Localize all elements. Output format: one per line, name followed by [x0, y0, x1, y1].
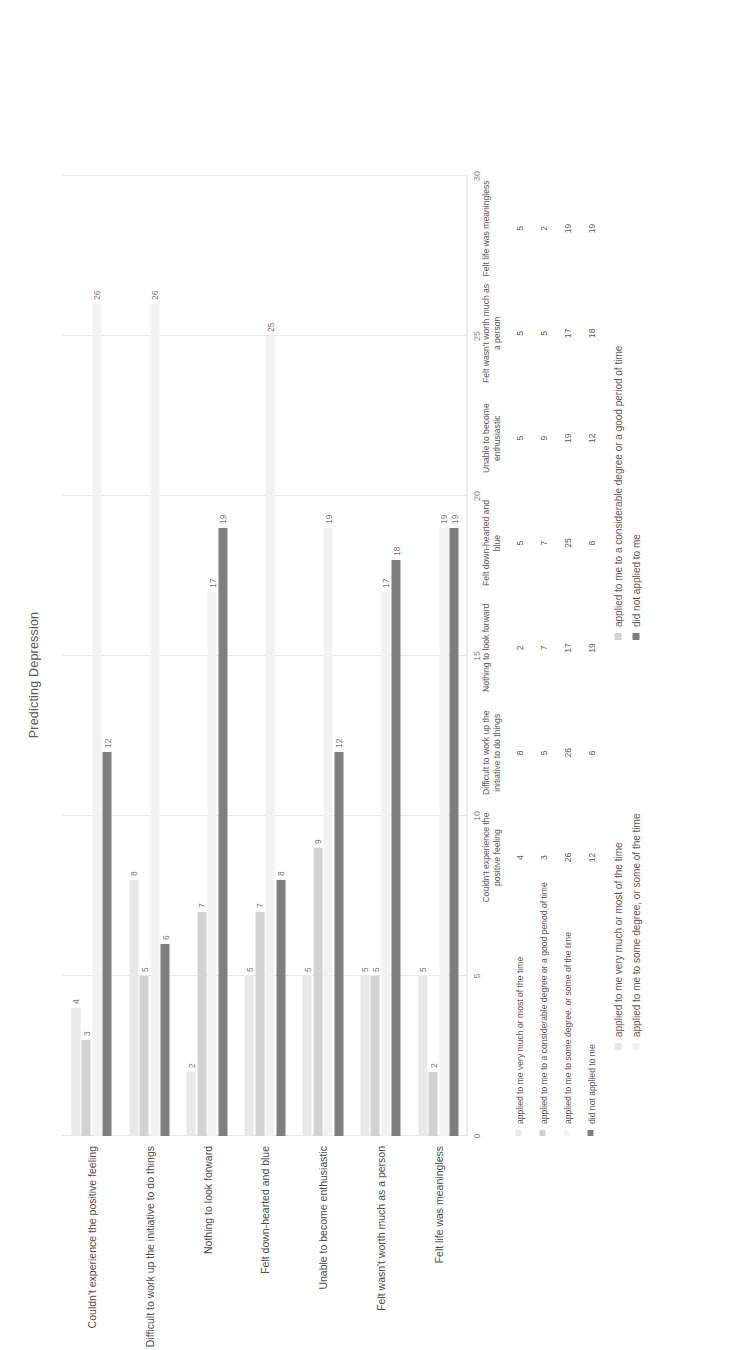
bar — [129, 880, 138, 1136]
legend-label: applied to me to a considerable degree o… — [612, 346, 623, 627]
table-cell: 5 — [536, 281, 560, 386]
table-cell: 7 — [536, 595, 560, 700]
bar-value-label: 2 — [428, 1063, 438, 1068]
table-cell: 6 — [584, 700, 608, 805]
bar-value-label: 7 — [254, 903, 264, 908]
table-cell: 5 — [512, 386, 536, 491]
bar — [244, 976, 253, 1136]
bar-value-label: 25 — [265, 323, 275, 332]
bar-value-label: 12 — [333, 739, 343, 748]
table-row-header-label: applied to me very much or most of the t… — [514, 957, 524, 1124]
bar-value-label: 26 — [91, 291, 101, 300]
table-row: did not applied to me126198121819 — [584, 176, 608, 1136]
legend-color-swatch — [632, 633, 639, 640]
bar — [313, 848, 322, 1136]
bar-value-label: 19 — [438, 515, 448, 524]
category-group: Felt down-hearted and blue57258 — [236, 176, 294, 1136]
chart-title: Predicting Depression — [26, 0, 40, 1350]
plot-area: 051015202530Couldn't experience the posi… — [62, 176, 467, 1136]
bar-value-label: 3 — [81, 1031, 91, 1036]
table-cell: 5 — [512, 176, 536, 281]
table-cell: 7 — [536, 491, 560, 596]
table-column-header: Nothing to look forward — [478, 595, 512, 700]
bar — [449, 528, 458, 1136]
bar — [218, 528, 227, 1136]
table-cell: 19 — [584, 176, 608, 281]
bar — [276, 880, 285, 1136]
bar-value-label: 12 — [102, 739, 112, 748]
bar-value-label: 17 — [207, 579, 217, 588]
bar-value-label: 8 — [275, 871, 285, 876]
bar-value-label: 26 — [149, 291, 159, 300]
table-corner-cell — [478, 910, 512, 1136]
category-group: Unable to become enthusiastic591912 — [293, 176, 351, 1136]
category-axis-label: Couldn't experience the positive feeling — [85, 1146, 97, 1328]
table-cell: 5 — [512, 491, 536, 596]
bar — [418, 976, 427, 1136]
legend-color-swatch — [614, 1043, 621, 1050]
table-row-header: applied to me to a considerable degree o… — [536, 910, 560, 1136]
table-row-header-label: applied to me to some degree, or some of… — [562, 932, 572, 1124]
table-cell: 8 — [512, 700, 536, 805]
category-group: Nothing to look forward271719 — [178, 176, 236, 1136]
category-group: Felt wasn't worth much as a person551718 — [351, 176, 409, 1136]
bar-value-label: 17 — [380, 579, 390, 588]
table-column-header: Couldn't experience the positive feeling — [478, 805, 512, 910]
bar — [370, 976, 379, 1136]
table-cell: 12 — [584, 386, 608, 491]
table-cell: 25 — [560, 491, 584, 596]
table-cell: 17 — [560, 595, 584, 700]
legend-item[interactable]: applied to me to a considerable degree o… — [612, 230, 623, 640]
table-cell: 26 — [560, 805, 584, 910]
table-row: applied to me very much or most of the t… — [512, 176, 536, 1136]
chart-stage: Predicting Depression 051015202530Couldn… — [0, 0, 741, 1350]
bar — [265, 336, 274, 1136]
data-table: Couldn't experience the positive feeling… — [478, 176, 608, 1136]
table-cell: 2 — [512, 595, 536, 700]
table-column-header: Felt down-hearted and blue — [478, 491, 512, 596]
legend-label: applied to me to some degree, or some of… — [630, 814, 641, 1037]
bar — [92, 304, 101, 1136]
table-row-header: did not applied to me — [584, 910, 608, 1136]
series-color-swatch — [539, 1130, 545, 1136]
bar-value-label: 2 — [186, 1063, 196, 1068]
bar-value-label: 5 — [359, 967, 369, 972]
table-cell: 12 — [584, 805, 608, 910]
table-cell: 8 — [584, 491, 608, 596]
table-row-header: applied to me very much or most of the t… — [512, 910, 536, 1136]
table-cell: 26 — [560, 700, 584, 805]
bar-value-label: 5 — [370, 967, 380, 972]
bar — [255, 912, 264, 1136]
table-cell: 19 — [560, 176, 584, 281]
legend-item[interactable]: applied to me to some degree, or some of… — [630, 640, 641, 1050]
bar — [186, 1072, 195, 1136]
table-cell: 5 — [512, 281, 536, 386]
bar — [360, 976, 369, 1136]
legend-item[interactable]: did not applied to me — [630, 230, 641, 640]
bar-value-label: 5 — [302, 967, 312, 972]
category-group: Difficult to work up the initiative to d… — [120, 176, 178, 1136]
legend-label: did not applied to me — [630, 534, 641, 627]
bar — [428, 1072, 437, 1136]
legend-item[interactable]: applied to me very much or most of the t… — [612, 640, 623, 1050]
bar — [302, 976, 311, 1136]
table-row-header-label: did not applied to me — [586, 1044, 596, 1124]
bar-value-label: 5 — [244, 967, 254, 972]
legend-color-swatch — [632, 1043, 639, 1050]
bar — [150, 304, 159, 1136]
category-axis-label: Unable to become enthusiastic — [316, 1146, 328, 1290]
category-group: Felt life was meaningless521919 — [409, 176, 467, 1136]
series-color-swatch — [587, 1130, 593, 1136]
bar — [207, 592, 216, 1136]
table-cell: 5 — [536, 700, 560, 805]
category-axis-label: Difficult to work up the initiative to d… — [143, 1146, 155, 1347]
bar — [81, 1040, 90, 1136]
category-group: Couldn't experience the positive feeling… — [62, 176, 120, 1136]
bar-value-label: 19 — [323, 515, 333, 524]
bar-value-label: 9 — [312, 839, 322, 844]
table-cell: 4 — [512, 805, 536, 910]
bar-value-label: 5 — [139, 967, 149, 972]
table-cell: 17 — [560, 281, 584, 386]
bar-value-label: 18 — [391, 547, 401, 556]
bar — [71, 1008, 80, 1136]
